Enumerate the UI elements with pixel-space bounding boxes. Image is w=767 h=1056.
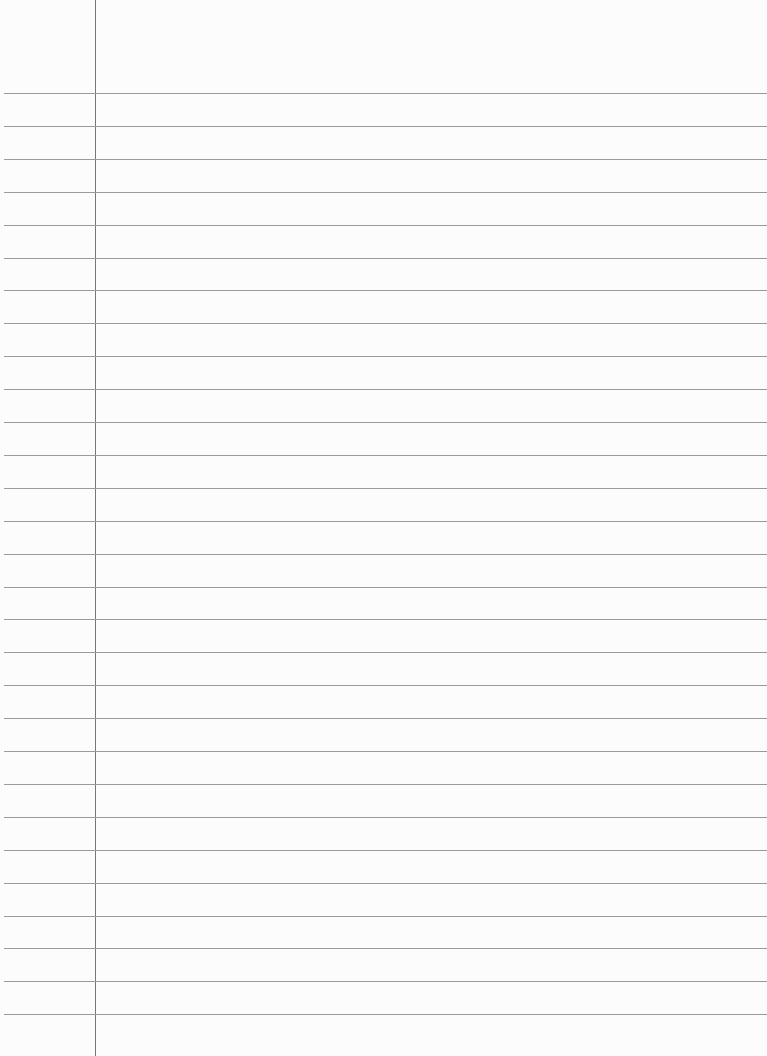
lined-paper [0, 0, 767, 1056]
ruled-line [4, 126, 767, 127]
ruled-line [4, 389, 767, 390]
ruled-line [4, 718, 767, 719]
ruled-line [4, 422, 767, 423]
ruled-line [4, 981, 767, 982]
ruled-line [4, 619, 767, 620]
ruled-line [4, 290, 767, 291]
ruled-line [4, 356, 767, 357]
ruled-line [4, 883, 767, 884]
ruled-line [4, 488, 767, 489]
ruled-line [4, 652, 767, 653]
ruled-line [4, 455, 767, 456]
ruled-line [4, 554, 767, 555]
ruled-line [4, 521, 767, 522]
ruled-line [4, 916, 767, 917]
ruled-line [4, 587, 767, 588]
ruled-line [4, 751, 767, 752]
ruled-line [4, 323, 767, 324]
ruled-line [4, 817, 767, 818]
ruled-line [4, 258, 767, 259]
ruled-line [4, 93, 767, 94]
ruled-line [4, 784, 767, 785]
ruled-line [4, 685, 767, 686]
ruled-line [4, 850, 767, 851]
ruled-line [4, 1014, 767, 1015]
ruled-line [4, 192, 767, 193]
ruled-line [4, 225, 767, 226]
ruled-line [4, 948, 767, 949]
ruled-line [4, 159, 767, 160]
